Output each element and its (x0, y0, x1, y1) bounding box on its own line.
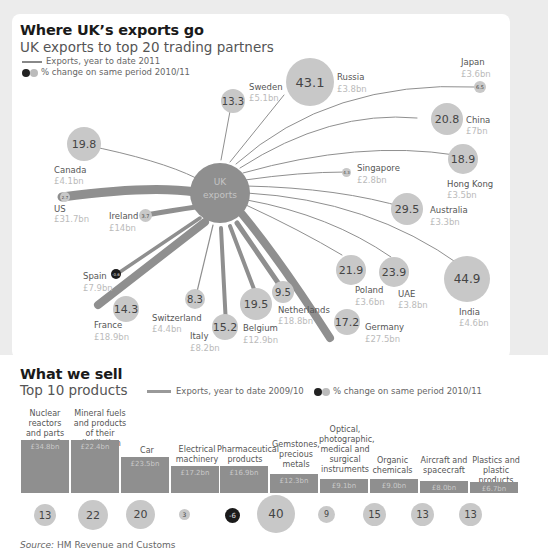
label-hong-kong: Hong Kong (447, 179, 493, 189)
bubble-japan: 6.5 (474, 81, 486, 93)
amount-switzerland: £4.4bn (152, 324, 182, 334)
label-china: China (466, 115, 490, 125)
label-india: India (459, 307, 480, 317)
bubble-india: 44.9 (444, 256, 490, 302)
bubble-poland: 21.9 (336, 255, 366, 285)
amount-belgium: £12.9bn (243, 335, 278, 345)
bubble-australia: 29.5 (391, 193, 423, 225)
amount-italy: £8.2bn (190, 343, 220, 353)
change-bubble: 13 (411, 503, 434, 526)
product-label: Car (122, 446, 172, 456)
label-canada: Canada (54, 165, 86, 175)
change-bubble: 13 (34, 504, 56, 526)
bubble-sweden: 13.3 (221, 89, 245, 113)
change-bubble: 9 (318, 506, 335, 523)
bubble-italy: 15.2 (212, 314, 238, 340)
change-bubble: 3 (179, 509, 190, 520)
bottom-title: What we sell (20, 366, 122, 382)
bubble-us: 2.7 (60, 192, 70, 202)
label-germany: Germany (365, 322, 404, 332)
bar-legend-icon (147, 390, 171, 393)
amount-spain: £7.9bn (83, 283, 113, 293)
bubble-ireland: 3.7 (139, 209, 152, 222)
product-bar: £12.3bn (270, 474, 318, 493)
label-ireland: Ireland (109, 211, 138, 221)
bubble-switzerland: 8.3 (185, 289, 205, 309)
product-bar: £6.7bn (470, 482, 518, 493)
label-singapore: Singapore (357, 163, 400, 173)
product-label: Electrical machinery (172, 445, 222, 465)
change-bubble: -6 (225, 508, 240, 523)
amount-ireland: £14bn (109, 223, 136, 233)
bubble-netherlands: 9.5 (272, 281, 294, 303)
label-russia: Russia (337, 72, 364, 82)
product-bar: £8.0bn (420, 481, 468, 493)
label-france: France (94, 320, 122, 330)
change-bubble: 15 (363, 503, 386, 526)
change-bubble: 20 (126, 500, 155, 529)
amount-uae: £3.8bn (398, 300, 428, 310)
negative-dot-icon (314, 388, 322, 396)
product-bar: £9.1bn (320, 479, 368, 493)
amount-singapore: £2.8bn (357, 175, 387, 185)
product-bar: £17.2bn (171, 466, 219, 493)
amount-netherlands: £18.8bn (278, 316, 313, 326)
amount-poland: £3.6bn (355, 297, 385, 307)
label-japan: Japan (461, 57, 485, 67)
product-label: Pharmaceutical products (217, 445, 273, 465)
bubble-russia: 43.1 (286, 58, 334, 106)
bubble-china: 20.8 (431, 103, 463, 135)
product-label: Gemstones, precious metals (271, 440, 321, 470)
source-note: Source: HM Revenue and Customs (20, 540, 175, 550)
amount-sweden: £5.1bn (249, 93, 279, 103)
label-australia: Australia (430, 205, 468, 215)
bubble-france: 14.3 (113, 296, 139, 322)
hub-label: UKexports (190, 176, 250, 202)
product-bar: £22.4bn (71, 440, 119, 493)
amount-china: £7bn (466, 126, 488, 136)
amount-hong-kong: £3.5bn (447, 190, 477, 200)
label-switzerland: Switzerland (152, 313, 202, 323)
amount-japan: £3.6bn (461, 69, 491, 79)
change-bubble: 13 (459, 503, 482, 526)
bubble-hong-kong: 18.9 (448, 144, 478, 174)
bubble-belgium: 19.5 (240, 288, 272, 320)
bubble-spain: -0.6 (111, 269, 121, 279)
positive-dot-icon (322, 388, 330, 396)
amount-australia: £3.3bn (430, 217, 460, 227)
bottom-subtitle: Top 10 products (20, 382, 128, 398)
bubble-singapore: 4.3 (342, 168, 351, 177)
product-bar: £23.5bn (121, 457, 169, 493)
amount-germany: £27.5bn (365, 334, 400, 344)
bubble-germany: 17.2 (334, 309, 360, 335)
label-netherlands: Netherlands (278, 305, 330, 315)
product-bar: £16.9bn (220, 466, 268, 493)
amount-india: £4.6bn (459, 318, 489, 328)
bottom-legend-line: Exports, year to date 2009/10 (147, 386, 304, 396)
bubble-canada: 19.8 (67, 127, 101, 161)
bubble-uae: 23.9 (379, 257, 409, 287)
amount-us: £31.7bn (54, 214, 89, 224)
label-belgium: Belgium (243, 323, 278, 333)
change-bubble: 40 (257, 495, 295, 533)
label-uae: UAE (398, 289, 415, 299)
label-us: US (54, 204, 66, 214)
product-label: Optical, photographic, medical and surgi… (319, 425, 371, 475)
amount-france: £18.9bn (94, 332, 129, 342)
label-italy: Italy (190, 331, 208, 341)
amount-russia: £3.8bn (337, 84, 367, 94)
change-bubble: 22 (78, 500, 108, 530)
product-bar: £9.0bn (370, 479, 418, 493)
label-sweden: Sweden (249, 82, 283, 92)
product-label: Organic chemicals (370, 456, 415, 476)
label-spain: Spain (83, 271, 107, 281)
product-label: Aircraft and spacecraft (418, 456, 470, 476)
amount-canada: £4.1bn (54, 176, 84, 186)
bottom-legend-dots: % change on same period 2010/11 (314, 386, 482, 396)
label-poland: Poland (355, 285, 383, 295)
product-bar: £34.8bn (21, 440, 69, 493)
